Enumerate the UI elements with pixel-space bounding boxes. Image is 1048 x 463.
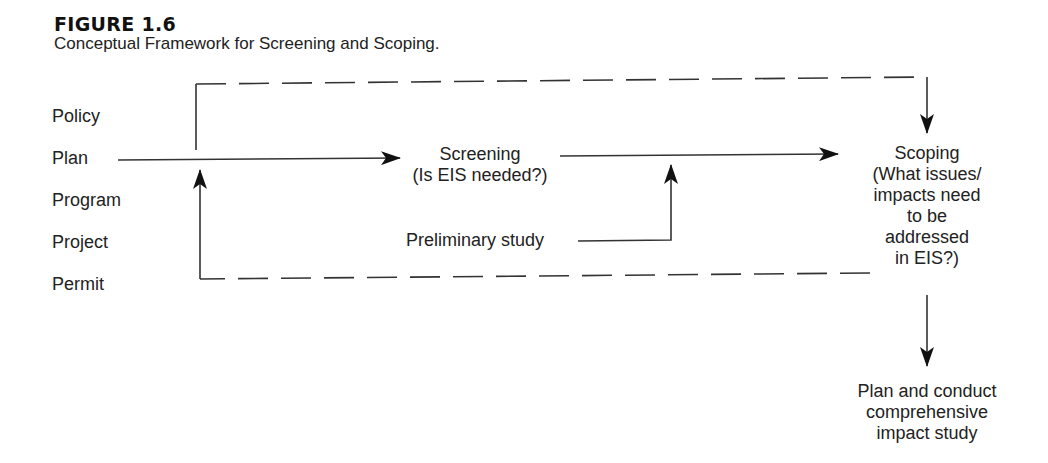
scoping-line: addressed — [857, 227, 997, 248]
scoping-line: impacts need — [857, 185, 997, 206]
input-policy: Policy — [52, 106, 100, 127]
arrow-preliminary-to-main — [578, 165, 671, 241]
input-project: Project — [52, 232, 108, 253]
impact-line: impact study — [837, 423, 1017, 444]
scoping-line: (What issues/ — [857, 164, 997, 185]
arrow-screening-to-scoping — [560, 154, 838, 156]
scoping-line: to be — [857, 206, 997, 227]
dashed-path-top-h — [196, 77, 927, 84]
screening-node: Screening (Is EIS needed?) — [400, 144, 560, 186]
scoping-line: in EIS?) — [857, 248, 997, 269]
preliminary-study-node: Preliminary study — [406, 230, 544, 251]
input-plan: Plan — [52, 148, 88, 169]
screening-title: Screening — [400, 144, 560, 165]
scoping-line: Scoping — [857, 143, 997, 164]
dashed-path-bottom-h — [200, 273, 870, 279]
arrow-plan-to-screening — [118, 158, 400, 160]
impact-line: comprehensive — [837, 402, 1017, 423]
impact-line: Plan and conduct — [837, 381, 1017, 402]
screening-question: (Is EIS needed?) — [400, 165, 560, 186]
input-program: Program — [52, 190, 121, 211]
scoping-node: Scoping (What issues/ impacts need to be… — [857, 143, 997, 269]
impact-study-node: Plan and conduct comprehensive impact st… — [837, 381, 1017, 444]
input-permit: Permit — [52, 274, 104, 295]
